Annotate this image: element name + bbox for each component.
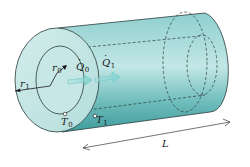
outer-radius-label: r1 — [20, 79, 30, 91]
heat-out-label: Q1 — [102, 58, 115, 70]
inner-radius-label: r0 — [52, 63, 62, 75]
length-label: L — [162, 139, 169, 149]
diagram-canvas — [0, 0, 250, 167]
inner-temp-label: T0 — [61, 117, 73, 129]
hollow-cylinder-diagram: r1 r0 Q0 Q1 T0 T1 L — [0, 0, 250, 167]
outer-temp-label: T1 — [96, 115, 108, 127]
heat-in-label: Q0 — [76, 62, 89, 74]
